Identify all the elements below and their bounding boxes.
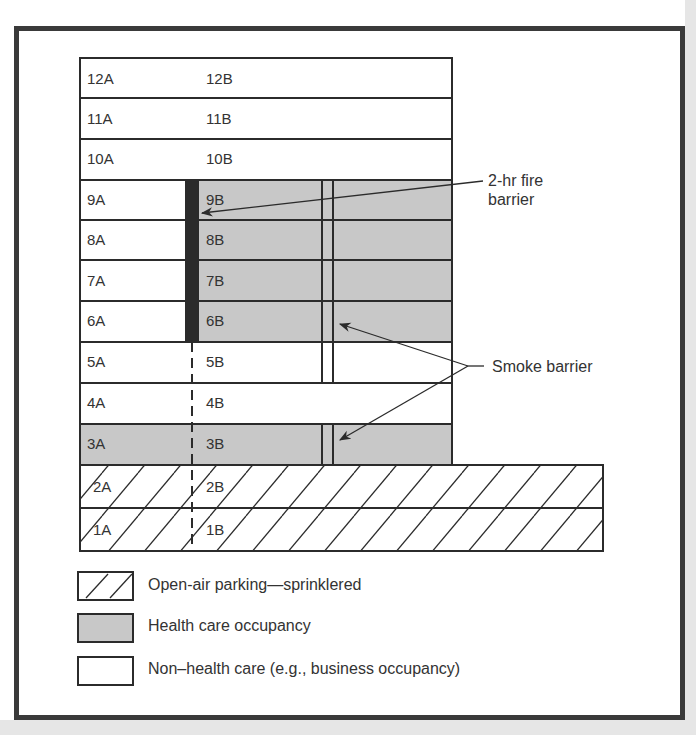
floor-label-5b: 5B: [206, 353, 224, 370]
floor-label-10a: 10A: [87, 150, 114, 167]
floor-label-5a: 5A: [87, 353, 105, 370]
floor-label-7b: 7B: [206, 272, 224, 289]
floor-label-12a: 12A: [87, 70, 114, 87]
legend-item-parking: Open-air parking—sprinklered: [78, 572, 361, 600]
floor-label-1a: 1A: [93, 521, 111, 538]
floor-label-2a: 2A: [93, 478, 111, 495]
floors-9-to-6: [80, 180, 452, 342]
floor-label-9b: 9B: [206, 191, 224, 208]
fire-barrier-label-line2: barrier: [488, 191, 535, 208]
floor-3-health-care: [80, 424, 452, 465]
floor-label-8a: 8A: [87, 231, 105, 248]
fire-barrier-wall: [186, 180, 198, 342]
fire-barrier-label-line1: 2-hr fire: [488, 172, 543, 189]
gray-swatch-icon: [78, 614, 133, 642]
smoke-barrier-label: Smoke barrier: [492, 358, 593, 375]
floors-5-to-4: [80, 342, 452, 424]
floor-label-9a: 9A: [87, 191, 105, 208]
tower-upper-floors: [80, 58, 452, 180]
floor-label-3b: 3B: [206, 435, 224, 452]
legend-item-health-care: Health care occupancy: [78, 614, 311, 642]
floor-label-6a: 6A: [87, 312, 105, 329]
floor-label-8b: 8B: [206, 231, 224, 248]
floor-label-10b: 10B: [206, 150, 233, 167]
floor-label-1b: 1B: [206, 521, 224, 538]
parking-levels: [80, 465, 603, 551]
floor-label-2b: 2B: [206, 478, 224, 495]
floor-label-11b: 11B: [206, 110, 232, 127]
building-section-diagram: 12A 12B 11A 11B 10A 10B 9A 9B 8A 8B 7A 7…: [0, 0, 696, 735]
floor-label-6b: 6B: [206, 312, 224, 329]
legend: Open-air parking—sprinklered Health care…: [78, 572, 460, 685]
legend-item-non-health-care: Non–health care (e.g., business occupanc…: [78, 657, 460, 685]
floor-label-4a: 4A: [87, 394, 105, 411]
legend-label-health-care: Health care occupancy: [148, 617, 311, 634]
floor-label-3a: 3A: [87, 435, 105, 452]
floor-label-4b: 4B: [206, 394, 224, 411]
floor-label-11a: 11A: [87, 110, 113, 127]
floor-label-7a: 7A: [87, 272, 105, 289]
floor-label-12b: 12B: [206, 70, 233, 87]
legend-label-parking: Open-air parking—sprinklered: [148, 576, 361, 593]
white-swatch-icon: [78, 657, 133, 685]
legend-label-non-health-care: Non–health care (e.g., business occupanc…: [148, 660, 460, 677]
